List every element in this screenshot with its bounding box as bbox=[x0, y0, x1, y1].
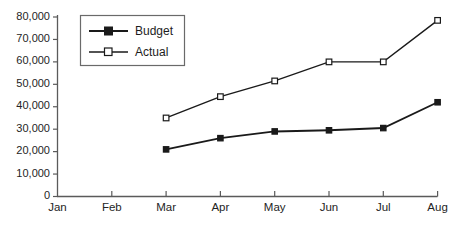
series-line-actual bbox=[166, 20, 438, 118]
data-point-budget bbox=[435, 100, 440, 105]
data-point-actual bbox=[272, 78, 278, 84]
y-tick-label: 40,000 bbox=[4, 99, 50, 111]
x-tick-label: Feb bbox=[85, 201, 139, 213]
x-tick-label: May bbox=[248, 201, 302, 213]
x-tick-label: Jul bbox=[356, 201, 410, 213]
x-axis-ticks bbox=[112, 191, 438, 197]
data-point-budget bbox=[381, 125, 386, 130]
x-tick-label: Jan bbox=[31, 201, 85, 213]
y-tick-label: 20,000 bbox=[4, 144, 50, 156]
series-line-budget bbox=[166, 102, 438, 149]
x-tick-label: Aug bbox=[411, 201, 459, 213]
data-point-actual bbox=[381, 59, 387, 65]
y-tick-label: 0 bbox=[4, 189, 50, 201]
line-chart: 010,00020,00030,00040,00050,00060,00070,… bbox=[0, 0, 459, 230]
data-point-budget bbox=[163, 147, 168, 152]
legend-label-actual: Actual bbox=[135, 45, 168, 59]
data-point-budget bbox=[218, 135, 223, 140]
data-point-actual bbox=[326, 59, 332, 65]
data-point-actual bbox=[435, 18, 441, 24]
y-tick-label: 10,000 bbox=[4, 167, 50, 179]
y-axis-ticks bbox=[53, 17, 58, 197]
data-point-budget bbox=[326, 128, 331, 133]
y-tick-label: 60,000 bbox=[4, 54, 50, 66]
plot-area bbox=[0, 0, 459, 230]
legend-label-budget: Budget bbox=[135, 24, 173, 38]
y-tick-label: 70,000 bbox=[4, 32, 50, 44]
x-tick-label: Apr bbox=[193, 201, 247, 213]
data-series-layer bbox=[163, 18, 440, 153]
x-tick-label: Jun bbox=[302, 201, 356, 213]
data-point-actual bbox=[163, 115, 169, 121]
y-tick-label: 80,000 bbox=[4, 10, 50, 22]
legend-box bbox=[81, 16, 185, 66]
y-tick-label: 50,000 bbox=[4, 77, 50, 89]
data-point-actual bbox=[218, 94, 224, 100]
x-tick-label: Mar bbox=[139, 201, 193, 213]
data-point-budget bbox=[272, 129, 277, 134]
y-tick-label: 30,000 bbox=[4, 122, 50, 134]
